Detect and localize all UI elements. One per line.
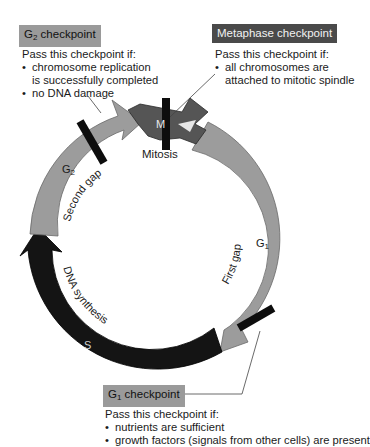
metaphase-intro: Pass this checkpoint if:: [215, 48, 354, 61]
first-gap-label: First gap: [219, 243, 243, 286]
metaphase-checkpoint-conditions: Pass this checkpoint if: •all chromosome…: [215, 48, 354, 87]
s-phase-letter: S: [84, 339, 91, 352]
s-phase-band: [20, 228, 222, 369]
g1-checkpoint-conditions: Pass this checkpoint if: •nutrients are …: [105, 408, 370, 447]
g2-phase-band: [30, 100, 142, 236]
g1-phase-letter: G1: [256, 237, 269, 253]
g1-bullet: •nutrients are sufficient: [105, 421, 370, 434]
m-phase-letter: M: [156, 118, 165, 131]
metaphase-bullet-continuation: attached to mitotic spindle: [215, 74, 354, 87]
g2-bullet: •chromosome replication: [22, 61, 158, 74]
g2-checkpoint-conditions: Pass this checkpoint if: •chromosome rep…: [22, 48, 158, 100]
metaphase-checkpoint-title: Metaphase checkpoint: [212, 24, 337, 43]
g1-checkpoint-title: G1 checkpoint: [103, 385, 185, 407]
g2-phase-letter: G2: [62, 163, 75, 179]
g1-intro: Pass this checkpoint if:: [105, 408, 370, 421]
g2-bullet-continuation: is successfully completed: [22, 74, 158, 87]
metaphase-bullet: •all chromosomes are: [215, 61, 354, 74]
g2-checkpoint-title: G2 checkpoint: [19, 25, 101, 47]
g2-intro: Pass this checkpoint if:: [22, 48, 158, 61]
g1-bullet: •growth factors (signals from other cell…: [105, 434, 370, 447]
g2-bullet: •no DNA damage: [22, 87, 158, 100]
mitosis-label: Mitosis: [142, 148, 178, 161]
